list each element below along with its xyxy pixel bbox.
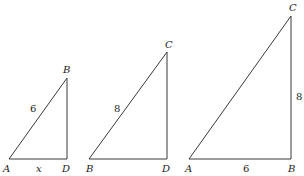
vertex-label-A: A bbox=[2, 163, 10, 174]
side-label-AD: x bbox=[36, 163, 42, 174]
triangle-BCD: B C D 8 bbox=[85, 39, 173, 174]
similar-triangles-diagram: A B D 6 x B C D 8 A B C 6 8 bbox=[0, 0, 304, 176]
triangle-ABD: A B D 6 x bbox=[2, 64, 70, 174]
side-label-AB: 6 bbox=[243, 163, 249, 174]
side-label-BC: 8 bbox=[114, 103, 120, 114]
vertex-label-B: B bbox=[62, 64, 70, 75]
triangle-ABD-shape bbox=[9, 78, 67, 159]
triangle-ABC-shape bbox=[189, 16, 291, 159]
vertex-label-D: D bbox=[61, 163, 70, 174]
vertex-label-A: A bbox=[184, 163, 192, 174]
vertex-label-D: D bbox=[161, 163, 170, 174]
triangle-ABC: A B C 6 8 bbox=[184, 2, 302, 174]
vertex-label-B: B bbox=[85, 163, 93, 174]
side-label-AB: 6 bbox=[30, 103, 36, 114]
side-label-BC: 8 bbox=[296, 91, 302, 102]
triangle-BCD-shape bbox=[89, 52, 167, 159]
vertex-label-C: C bbox=[165, 39, 173, 50]
vertex-label-C: C bbox=[289, 2, 297, 13]
vertex-label-B: B bbox=[287, 163, 295, 174]
